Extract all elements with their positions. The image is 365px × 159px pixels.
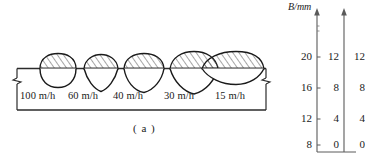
left-axis-tick-label-0: 20 [294,51,312,62]
middle-axis-tick-label-1: 8 [321,82,339,93]
speed-label-bead-2: 60 m/h [68,91,98,102]
y-axis-title: B/mm [288,2,311,12]
right-axis-tick-label-2: 4 [347,113,365,124]
left-axis-tick-label-1: 16 [294,82,312,93]
chart-axes-group [314,8,356,152]
right-axis-tick-label-1: 8 [347,82,365,93]
speed-label-bead-5: 15 m/h [215,91,245,102]
break-symbol-left-icon [13,78,21,84]
right-axis-tick-label-0: 12 [347,51,365,62]
bead-reinforcement-2 [84,55,118,69]
middle-axis-tick-label-2: 4 [321,113,339,124]
bead-reinforcement-5 [202,52,264,69]
speed-label-bead-3: 40 m/h [113,91,143,102]
speed-label-bead-4: 30 m/h [164,91,194,102]
left-axis-arrow-icon [314,8,320,16]
bead-penetration-3 [124,69,164,93]
bead-penetration-2 [84,69,118,92]
left-axis-tick-label-3: 8 [294,139,312,150]
weld-bead-3 [124,54,164,93]
bead-reinforcement-1 [40,54,76,69]
left-axis-tick-label-2: 12 [294,113,312,124]
middle-axis-arrow-icon [341,8,347,16]
bead-reinforcement-3 [124,54,164,69]
right-axis-tick-label-3: 0 [347,139,365,150]
bead-penetration-1 [40,69,76,88]
weld-bead-2 [84,55,118,92]
middle-axis-tick-label-0: 12 [321,51,339,62]
break-symbol-right-icon [262,78,270,84]
subfigure-caption: ( a ) [133,123,156,134]
weld-bead-1 [40,54,76,88]
middle-axis-tick-label-3: 0 [321,139,339,150]
speed-label-bead-1: 100 m/h [20,91,55,102]
